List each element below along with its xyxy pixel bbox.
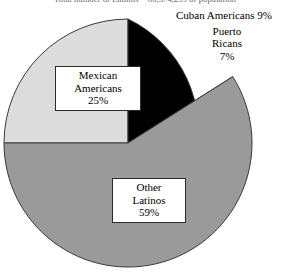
pie-label-other-latinos-value: 59%	[119, 206, 179, 219]
pie-label-mexican-americans-line-1: Mexican	[62, 69, 134, 82]
pie-label-other-latinos-line-2: Latinos	[119, 194, 179, 207]
pie-chart-figure: Total number of Latinos = 66,374,259 of …	[0, 0, 290, 276]
pie-label-cuban-americans: Cuban Americans 9%	[176, 9, 272, 21]
pie-label-cuban-americans-text: Cuban Americans 9%	[176, 9, 272, 21]
pie-label-mexican-americans: Mexican Americans 25%	[55, 66, 141, 111]
pie-chart-graphic	[0, 0, 290, 276]
pie-label-puerto-ricans-line-2: Ricans	[212, 37, 242, 49]
pie-label-other-latinos-line-1: Other	[119, 181, 179, 194]
pie-label-mexican-americans-line-2: Americans	[62, 82, 134, 95]
pie-label-puerto-ricans-line-1: Puerto	[212, 25, 242, 37]
pie-label-other-latinos: Other Latinos 59%	[112, 178, 186, 223]
pie-label-mexican-americans-value: 25%	[62, 94, 134, 107]
pie-label-puerto-ricans: Puerto Ricans 7%	[212, 25, 242, 62]
pie-label-puerto-ricans-value: 7%	[212, 50, 242, 62]
